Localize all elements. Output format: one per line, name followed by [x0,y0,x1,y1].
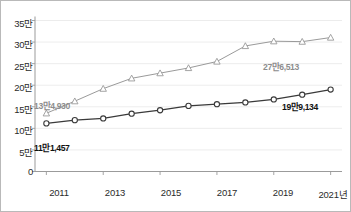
ytick-label-250000: 25만 [3,59,33,73]
annotation-gray-end: 27만6,513 [263,60,299,72]
ytick-label-200000: 20만 [3,80,33,94]
ytick-label-350000: 35만 [3,16,33,30]
series-layer [43,34,334,126]
data-point-marker [186,103,191,108]
ytick-label-300000: 30만 [3,37,33,51]
data-point-marker [129,111,134,116]
annotation-dark-end: 19만9,134 [282,100,318,112]
ytick-label-150000: 15만 [3,102,33,116]
ytick-label-0: 0 [3,166,33,177]
ytick-label-50000: 5만 [3,145,33,159]
data-point-marker [214,102,219,107]
data-point-marker [243,100,248,105]
data-point-marker [327,34,333,40]
data-point-marker [101,116,106,121]
chart-container: 35만 30만 25만 20만 15만 10만 5만 0 2011 2013 2… [0,0,351,212]
data-point-marker [44,121,49,126]
data-point-marker [157,108,162,113]
data-point-marker [72,118,77,123]
ytick-label-100000: 10만 [3,123,33,137]
xtick-label-2019: 2019 [265,187,301,198]
xtick-label-2021: 2021년 [315,187,351,201]
data-point-marker [328,87,333,92]
data-point-marker [72,98,78,104]
xtick-label-2013: 2013 [97,187,133,198]
data-point-marker [271,97,276,102]
annotation-gray-start: 13만4,930 [34,99,70,111]
xtick-label-2015: 2015 [153,187,189,198]
data-point-marker [214,58,220,64]
xtick-label-2011: 2011 [41,187,77,198]
xtick-label-2017: 2017 [209,187,245,198]
annotation-dark-start: 11만1,457 [34,141,69,153]
data-point-marker [300,92,305,97]
